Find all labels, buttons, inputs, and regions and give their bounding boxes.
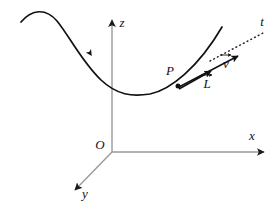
point-p-dot xyxy=(176,84,181,89)
vector-l-label-group: L xyxy=(201,75,212,91)
vector-l-label: L xyxy=(202,76,210,91)
vector-v-label: v xyxy=(223,56,229,71)
vector-v-label-group: v xyxy=(220,55,231,71)
vector-kinematics-figure: z x y O t P v xyxy=(0,0,279,207)
y-axis-label: y xyxy=(80,186,88,201)
origin-label: O xyxy=(95,137,105,152)
y-axis-line xyxy=(75,152,112,190)
coordinate-axes: z x y O xyxy=(75,15,264,201)
point-p-label: P xyxy=(165,63,174,78)
tangent-line-group: t xyxy=(210,14,265,61)
x-axis-label: x xyxy=(248,128,255,143)
curve-direction-arrow-icon xyxy=(86,49,95,58)
tangent-line-label: t xyxy=(260,14,264,29)
figure-canvas: z x y O t P v xyxy=(0,0,279,207)
z-axis-label: z xyxy=(118,15,124,30)
